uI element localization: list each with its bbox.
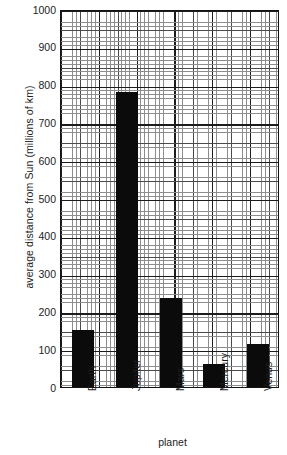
y-tick-label: 100	[14, 345, 56, 356]
y-tick-label: 500	[14, 194, 56, 205]
bar-jupiter	[116, 92, 138, 387]
y-tick-label: 600	[14, 156, 56, 167]
x-tick-label-earth: Earth	[87, 366, 98, 391]
y-tick-label: 1000	[14, 5, 56, 16]
bar-chart: average distance from Sun (millions of k…	[0, 0, 287, 455]
y-tick-label: 900	[14, 42, 56, 53]
y-tick-label: 800	[14, 80, 56, 91]
y-tick-label: 700	[14, 118, 56, 129]
x-tick-label-mars: Mars	[175, 368, 186, 391]
y-tick-label: 200	[14, 307, 56, 318]
x-axis-title: planet	[60, 436, 285, 448]
x-tick-label-jupiter: Jupiter	[131, 359, 142, 391]
y-tick-label: 300	[14, 269, 56, 280]
x-axis-tick-labels: EarthJupiterMarsMercuryVenus	[60, 388, 279, 436]
y-tick-label: 400	[14, 231, 56, 242]
x-tick-label-venus: Venus	[263, 362, 274, 391]
x-tick-label-mercury: Mercury	[219, 353, 230, 391]
plot-area	[60, 10, 279, 388]
y-axis-tick-labels: 01002003004005006007008009001000	[14, 0, 56, 455]
y-tick-label: 0	[14, 383, 56, 394]
